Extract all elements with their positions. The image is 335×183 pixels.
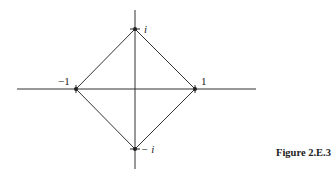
point-minus-one [74, 85, 78, 93]
label-minus-one: −1 [58, 75, 70, 87]
point-one [193, 85, 197, 93]
label-one: 1 [201, 75, 207, 87]
label-minus-i: − i [141, 143, 154, 155]
point-minus-i [130, 147, 140, 151]
point-i [130, 27, 140, 31]
label-i: i [144, 23, 147, 35]
figure-caption: Figure 2.E.3 [276, 147, 331, 158]
